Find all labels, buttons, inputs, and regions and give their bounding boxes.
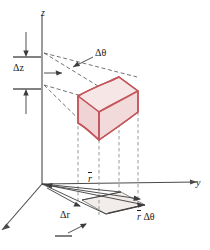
delta-z-lower-arrowhead (23, 89, 28, 96)
y-axis-line (42, 182, 197, 184)
r-bar-dimension-arrowhead-out (133, 196, 141, 201)
z-axis-label: z (41, 8, 45, 18)
x-axis-line (2, 184, 42, 230)
diagram-canvas (0, 0, 210, 250)
delta-theta-label: Δθ (95, 48, 106, 58)
r-bar-text: r (88, 173, 92, 184)
leader-top-front (44, 53, 98, 86)
r-bar-label: r (88, 174, 92, 184)
y-axis-label: y (196, 178, 200, 188)
figure-container: z y Δz Δθ r Δr r Δθ (0, 0, 210, 250)
delta-r-text: Δr (60, 209, 70, 220)
delta-z-label: Δz (13, 63, 24, 73)
delta-z-pointer-arrowhead (56, 70, 62, 75)
r-bar-delta-theta-label: r Δθ (137, 212, 155, 222)
delta-r-label: Δr (60, 210, 70, 220)
delta-z-upper-arrowhead (23, 50, 28, 57)
x-axis-arrowhead (2, 223, 10, 230)
delta-z-text: Δz (13, 62, 24, 73)
delta-theta-text: Δθ (95, 47, 106, 58)
r-bar-delta-theta-suffix: Δθ (141, 211, 155, 222)
